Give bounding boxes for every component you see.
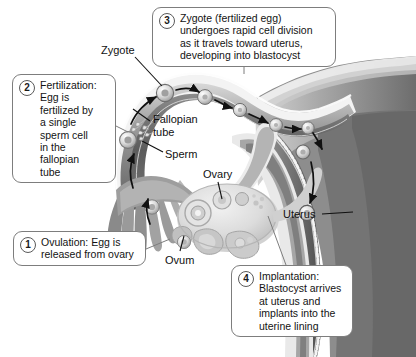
- callout-text-1: Ovulation: Egg is released from ovary: [41, 236, 134, 261]
- callout-ovulation[interactable]: 1 Ovulation: Egg is released from ovary: [13, 231, 146, 266]
- callout-number-2: 2: [19, 80, 35, 96]
- callout-implantation[interactable]: 4 Implantation: Blastocyst arrives at ut…: [231, 265, 353, 337]
- callout-fertilization[interactable]: 2 Fertilization: Egg is fertilized by a …: [12, 74, 116, 183]
- label-ovary: Ovary: [203, 168, 232, 181]
- callout-text-2: Fertilization: Egg is fertilized by a si…: [40, 79, 97, 178]
- label-uterus: Uterus: [283, 208, 315, 221]
- label-sperm: Sperm: [165, 148, 197, 161]
- callout-number-4: 4: [238, 271, 254, 287]
- label-zygote: Zygote: [101, 44, 135, 57]
- callout-zygote-division[interactable]: 3 Zygote (fertilized egg) undergoes rapi…: [152, 7, 336, 67]
- label-ovum: Ovum: [165, 254, 194, 267]
- label-fallopian-tube: Fallopian tube: [153, 113, 198, 138]
- callout-text-4: Implantation: Blastocyst arrives at uter…: [259, 270, 341, 332]
- callout-number-1: 1: [20, 237, 36, 253]
- callout-number-3: 3: [159, 13, 175, 29]
- callout-text-3: Zygote (fertilized egg) undergoes rapid …: [180, 12, 313, 62]
- diagram-canvas: 1 Ovulation: Egg is released from ovary …: [0, 0, 416, 357]
